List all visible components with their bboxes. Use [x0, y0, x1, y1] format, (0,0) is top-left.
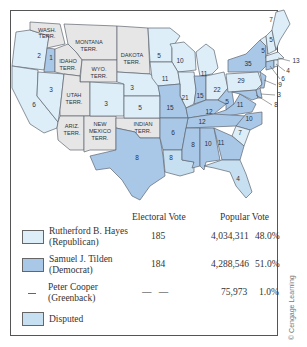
svg-text:6: 6	[171, 129, 175, 136]
svg-text:TERR.: TERR.	[66, 99, 83, 105]
cooper-party: (Greenback)	[48, 293, 98, 304]
svg-text:6: 6	[32, 101, 36, 108]
svg-text:22: 22	[213, 86, 221, 93]
svg-text:21: 21	[181, 94, 189, 101]
svg-text:3: 3	[277, 91, 281, 98]
svg-text:5: 5	[138, 104, 142, 111]
electoral-vote-header: Electoral Vote	[132, 212, 186, 222]
svg-text:9: 9	[278, 81, 282, 88]
svg-text:TERR.: TERR.	[135, 128, 152, 134]
state-new-york	[228, 40, 266, 72]
svg-text:15: 15	[196, 92, 204, 99]
legend-row-hayes: Rutherford B. Hayes (Republican)	[22, 223, 128, 251]
election-map-1876: WASH.TERR. MONTANATERR. DAKOTATERR. IDAH…	[0, 0, 307, 215]
svg-text:NEW: NEW	[93, 121, 107, 127]
svg-text:IDAHO: IDAHO	[59, 58, 77, 64]
svg-text:TERR.: TERR.	[39, 33, 56, 39]
svg-text:5: 5	[225, 98, 229, 105]
cooper-popular: 75,973	[221, 287, 247, 297]
tilden-swatch	[22, 258, 44, 272]
disputed-label: Disputed	[49, 314, 83, 325]
svg-text:11: 11	[218, 139, 225, 146]
svg-text:12: 12	[205, 108, 213, 115]
state-connecticut	[266, 60, 274, 70]
svg-text:10: 10	[245, 115, 253, 122]
svg-text:5: 5	[157, 52, 161, 59]
hayes-swatch	[22, 230, 44, 244]
svg-text:10: 10	[204, 140, 212, 147]
state-maine	[272, 10, 290, 50]
hayes-name: Rutherford B. Hayes	[49, 226, 128, 237]
svg-text:TERR.: TERR.	[92, 135, 109, 141]
cooper-electoral: — —	[142, 287, 168, 297]
svg-text:2: 2	[37, 52, 41, 59]
hayes-electoral: 185	[151, 231, 165, 241]
svg-text:12: 12	[198, 118, 206, 125]
svg-text:ARIZ.: ARIZ.	[65, 123, 80, 129]
popular-vote-header: Popular Vote	[220, 212, 269, 222]
svg-text:8: 8	[274, 101, 278, 108]
svg-text:7: 7	[269, 16, 273, 23]
legend-row-disputed: Disputed	[22, 305, 83, 333]
state-rhode-island	[274, 60, 278, 67]
svg-text:TERR.: TERR.	[64, 130, 81, 136]
tilden-name: Samuel J. Tilden	[49, 254, 113, 265]
svg-text:7: 7	[238, 129, 242, 136]
svg-text:TERR.: TERR.	[124, 59, 141, 65]
svg-text:3: 3	[130, 84, 134, 91]
svg-text:MEXICO: MEXICO	[89, 128, 112, 134]
svg-text:11: 11	[201, 70, 208, 77]
tilden-electoral: 184	[151, 259, 165, 269]
svg-text:3: 3	[49, 86, 53, 93]
svg-text:3: 3	[104, 100, 108, 107]
svg-text:13: 13	[292, 57, 300, 64]
svg-text:8: 8	[169, 154, 173, 161]
svg-text:5: 5	[261, 47, 265, 54]
tilden-label: Samuel J. Tilden (Democrat)	[49, 254, 113, 276]
tilden-percent: 51.0%	[255, 259, 280, 269]
territory-dakota	[117, 26, 150, 74]
state-florida	[204, 160, 252, 198]
svg-text:11: 11	[237, 101, 244, 108]
state-colorado	[90, 82, 124, 116]
state-indiana	[194, 76, 206, 104]
svg-text:TERR.: TERR.	[91, 73, 108, 79]
copyright-credit: © Cengage Learning	[288, 275, 295, 340]
tilden-party: (Democrat)	[49, 265, 113, 276]
cooper-label: Peter Cooper (Greenback)	[48, 282, 98, 304]
cooper-percent: 1.0%	[259, 287, 279, 297]
svg-text:TERR.: TERR.	[60, 65, 77, 71]
state-kansas	[124, 96, 160, 118]
cooper-name: Peter Cooper	[48, 282, 98, 293]
svg-text:35: 35	[244, 60, 252, 67]
svg-text:10: 10	[176, 57, 184, 64]
cooper-dash	[28, 293, 36, 294]
svg-text:4: 4	[286, 67, 290, 74]
svg-text:8: 8	[135, 154, 139, 161]
hayes-party: (Republican)	[49, 237, 128, 248]
svg-text:TERR.: TERR.	[81, 46, 98, 52]
tilden-popular: 4,288,546	[211, 259, 249, 269]
svg-text:INDIAN: INDIAN	[134, 121, 153, 127]
svg-text:29: 29	[237, 77, 245, 84]
svg-text:MONTANA: MONTANA	[75, 39, 103, 45]
svg-text:15: 15	[166, 104, 174, 111]
svg-text:8: 8	[191, 141, 195, 148]
svg-text:WYO.: WYO.	[92, 66, 107, 72]
svg-text:4: 4	[236, 175, 240, 182]
svg-text:UTAH: UTAH	[67, 92, 82, 98]
legend-row-cooper: Peter Cooper (Greenback)	[22, 279, 98, 307]
hayes-percent: 48.0%	[255, 231, 280, 241]
legend-row-tilden: Samuel J. Tilden (Democrat)	[22, 251, 113, 279]
svg-text:5: 5	[269, 36, 273, 43]
svg-text:11: 11	[162, 75, 169, 82]
hayes-popular: 4,034,311	[211, 231, 249, 241]
disputed-swatch	[22, 312, 44, 326]
svg-text:1: 1	[49, 54, 53, 61]
svg-text:DAKOTA: DAKOTA	[121, 52, 144, 58]
hayes-label: Rutherford B. Hayes (Republican)	[49, 226, 128, 248]
